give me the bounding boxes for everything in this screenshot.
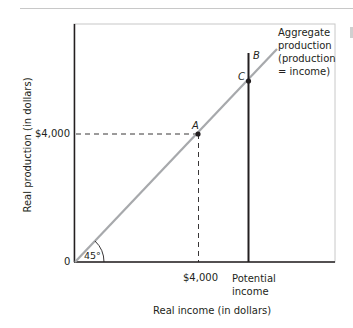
point-c-label: C [238,71,245,83]
point-a-label: A [192,120,199,132]
point-b-label: B [253,50,260,62]
potential-income-label: Potential income [232,272,276,298]
curve-label-line: = income) [278,65,336,78]
potential-income-line1: Potential [232,272,276,285]
potential-income-line2: income [232,285,276,298]
point-a-marker [195,131,200,136]
point-c-marker [246,78,251,83]
curve-label-line: production [278,39,336,52]
y-axis-title: Real production (in dollars) [22,75,34,215]
curve-label-line: Aggregate [278,26,336,39]
y-tick-label: $4,000 [35,128,70,140]
origin-label: 0 [64,256,70,268]
angle-label: 45° [84,250,101,262]
curve-label: Aggregate production (production = incom… [278,26,336,78]
x-axis-title: Real income (in dollars) [153,305,271,317]
curve-label-line: (production [278,52,336,65]
x-tick-label: $4,000 [183,272,218,284]
